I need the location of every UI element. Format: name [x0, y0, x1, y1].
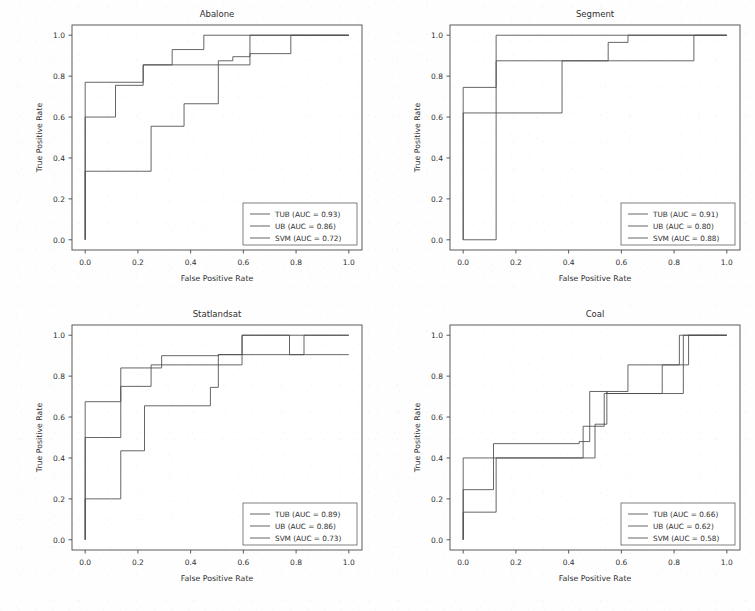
x-tick-label: 0.8	[668, 258, 680, 267]
x-tick-label: 0.2	[132, 258, 144, 267]
x-tick-label: 0.6	[615, 558, 627, 567]
legend-label: TUB (AUC = 0.89)	[274, 510, 340, 519]
roc-figure: Abalone0.00.20.40.60.81.00.00.20.40.60.8…	[0, 0, 755, 611]
chart-title: Coal	[586, 309, 605, 319]
x-tick-label: 0.2	[510, 558, 522, 567]
x-tick-label: 0.6	[237, 558, 249, 567]
x-tick-label: 0.4	[563, 258, 575, 267]
legend-label: UB (AUC = 0.80)	[653, 222, 714, 231]
y-tick-label: 0.8	[53, 372, 65, 381]
legend-label: TUB (AUC = 0.66)	[652, 510, 718, 519]
chart-title: Statlandsat	[193, 309, 242, 319]
legend-label: TUB (AUC = 0.93)	[274, 210, 340, 219]
y-tick-label: 0.8	[53, 72, 65, 81]
x-tick-label: 0.8	[290, 558, 302, 567]
y-tick-label: 0.0	[53, 236, 65, 245]
y-axis-label: True Positive Rate	[35, 103, 44, 174]
x-axis-label: False Positive Rate	[181, 274, 254, 283]
y-tick-label: 0.6	[53, 113, 65, 122]
y-tick-label: 0.0	[431, 536, 443, 545]
legend-label: UB (AUC = 0.86)	[275, 522, 336, 531]
y-tick-label: 0.8	[431, 72, 443, 81]
x-tick-label: 0.4	[185, 558, 197, 567]
legend-label: TUB (AUC = 0.91)	[652, 210, 718, 219]
x-tick-label: 1.0	[721, 558, 733, 567]
x-tick-label: 0.0	[79, 258, 91, 267]
y-tick-label: 0.4	[431, 154, 443, 163]
x-tick-label: 0.0	[79, 558, 91, 567]
legend-label: SVM (AUC = 0.58)	[653, 534, 720, 543]
panel-segment: Segment0.00.20.40.60.81.00.00.20.40.60.8…	[378, 0, 755, 305]
y-axis-label: True Positive Rate	[35, 403, 44, 474]
legend-label: SVM (AUC = 0.73)	[275, 534, 342, 543]
roc-chart-segment: Segment0.00.20.40.60.81.00.00.20.40.60.8…	[378, 0, 755, 305]
x-axis-label: False Positive Rate	[181, 574, 254, 583]
y-axis-label: True Positive Rate	[413, 403, 422, 474]
panel-statlandsat: Statlandsat0.00.20.40.60.81.00.00.20.40.…	[0, 300, 377, 605]
y-tick-label: 0.2	[53, 495, 65, 504]
x-axis-label: False Positive Rate	[559, 574, 632, 583]
y-tick-label: 0.8	[431, 372, 443, 381]
roc-chart-statlandsat: Statlandsat0.00.20.40.60.81.00.00.20.40.…	[0, 300, 377, 605]
x-tick-label: 0.0	[457, 258, 469, 267]
x-tick-label: 0.2	[132, 558, 144, 567]
panel-coal: Coal0.00.20.40.60.81.00.00.20.40.60.81.0…	[378, 300, 755, 605]
y-tick-label: 1.0	[431, 31, 443, 40]
chart-title: Segment	[576, 9, 615, 19]
x-tick-label: 0.4	[185, 258, 197, 267]
x-tick-label: 0.6	[237, 258, 249, 267]
legend-label: UB (AUC = 0.86)	[275, 222, 336, 231]
legend-label: SVM (AUC = 0.72)	[275, 234, 342, 243]
legend-label: SVM (AUC = 0.88)	[653, 234, 720, 243]
x-tick-label: 1.0	[343, 258, 355, 267]
y-tick-label: 0.2	[431, 495, 443, 504]
y-tick-label: 0.0	[53, 536, 65, 545]
x-tick-label: 0.0	[457, 558, 469, 567]
y-tick-label: 0.2	[53, 195, 65, 204]
y-tick-label: 0.2	[431, 195, 443, 204]
y-tick-label: 0.4	[53, 454, 65, 463]
x-tick-label: 0.8	[668, 558, 680, 567]
x-tick-label: 1.0	[721, 258, 733, 267]
x-tick-label: 1.0	[343, 558, 355, 567]
x-axis-label: False Positive Rate	[559, 274, 632, 283]
legend-label: UB (AUC = 0.62)	[653, 522, 714, 531]
y-axis-label: True Positive Rate	[413, 103, 422, 174]
y-tick-label: 1.0	[53, 331, 65, 340]
y-tick-label: 0.4	[431, 454, 443, 463]
roc-chart-abalone: Abalone0.00.20.40.60.81.00.00.20.40.60.8…	[0, 0, 377, 305]
y-tick-label: 0.6	[431, 113, 443, 122]
panel-abalone: Abalone0.00.20.40.60.81.00.00.20.40.60.8…	[0, 0, 377, 305]
chart-title: Abalone	[200, 9, 235, 19]
y-tick-label: 1.0	[53, 31, 65, 40]
y-tick-label: 0.4	[53, 154, 65, 163]
y-tick-label: 1.0	[431, 331, 443, 340]
y-tick-label: 0.6	[431, 413, 443, 422]
x-tick-label: 0.6	[615, 258, 627, 267]
y-tick-label: 0.0	[431, 236, 443, 245]
x-tick-label: 0.4	[563, 558, 575, 567]
y-tick-label: 0.6	[53, 413, 65, 422]
x-tick-label: 0.2	[510, 258, 522, 267]
roc-chart-coal: Coal0.00.20.40.60.81.00.00.20.40.60.81.0…	[378, 300, 755, 605]
x-tick-label: 0.8	[290, 258, 302, 267]
